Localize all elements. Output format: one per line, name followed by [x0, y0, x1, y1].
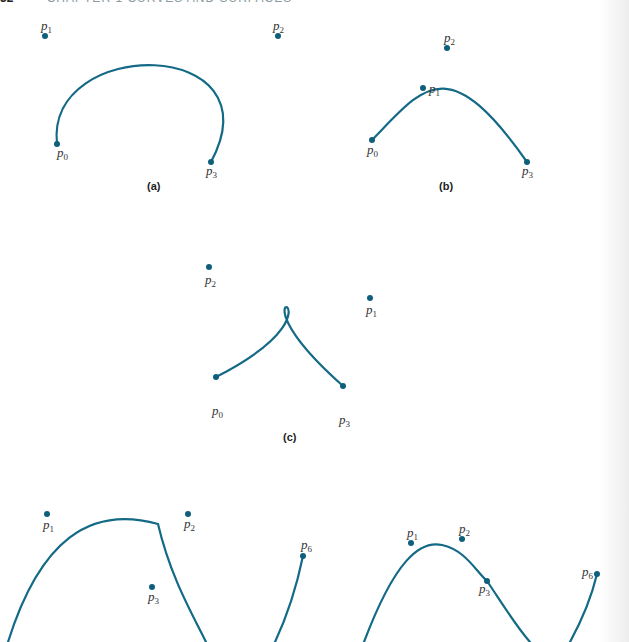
curve-c — [216, 307, 343, 386]
control-point-e-p6 — [594, 571, 600, 577]
curve-a — [57, 65, 224, 162]
control-point-b-p1 — [420, 85, 426, 91]
control-point-c-p1 — [367, 295, 373, 301]
curve-d — [8, 519, 206, 642]
label-b-p1: p1 — [428, 81, 440, 98]
control-point-e-p2 — [459, 536, 465, 542]
label-c-p3: p3 — [338, 412, 351, 429]
label-b-p3: p3 — [521, 163, 534, 180]
panel-caption-c: (c) — [283, 431, 297, 443]
control-point-c-p2 — [206, 264, 212, 270]
label-d-p3: p3 — [147, 589, 160, 606]
label-d-p1: p1 — [42, 517, 54, 534]
control-point-b-p2 — [444, 45, 450, 51]
control-point-c-p3 — [340, 383, 346, 389]
label-a-p1: p1 — [40, 18, 52, 35]
label-a-p2: p2 — [272, 18, 284, 35]
bezier-figure: p1 p2 p0 p3 (a) p2 p1 p0 p3 (b) p2 p1 p0… — [0, 0, 629, 642]
control-point-c-p0 — [213, 374, 219, 380]
curve-e — [364, 544, 530, 642]
label-b-p2: p2 — [443, 30, 455, 47]
label-a-p0: p0 — [56, 145, 69, 162]
label-d-p2: p2 — [183, 516, 195, 533]
control-point-d-p6 — [300, 553, 306, 559]
curve-d-right — [275, 556, 303, 642]
label-c-p1: p1 — [365, 302, 377, 319]
panel-caption-b: (b) — [439, 180, 453, 192]
label-c-p2: p2 — [204, 272, 216, 289]
curve-e-right — [570, 574, 597, 642]
label-b-p0: p0 — [366, 142, 379, 159]
label-c-p0: p0 — [211, 403, 224, 420]
panel-caption-a: (a) — [147, 180, 161, 192]
curve-b — [372, 89, 527, 162]
label-d-p6: p6 — [300, 537, 313, 554]
label-e-p6: p6 — [581, 564, 594, 581]
label-e-p2: p2 — [458, 521, 470, 538]
label-a-p3: p3 — [205, 163, 218, 180]
label-e-p1: p1 — [406, 525, 418, 542]
